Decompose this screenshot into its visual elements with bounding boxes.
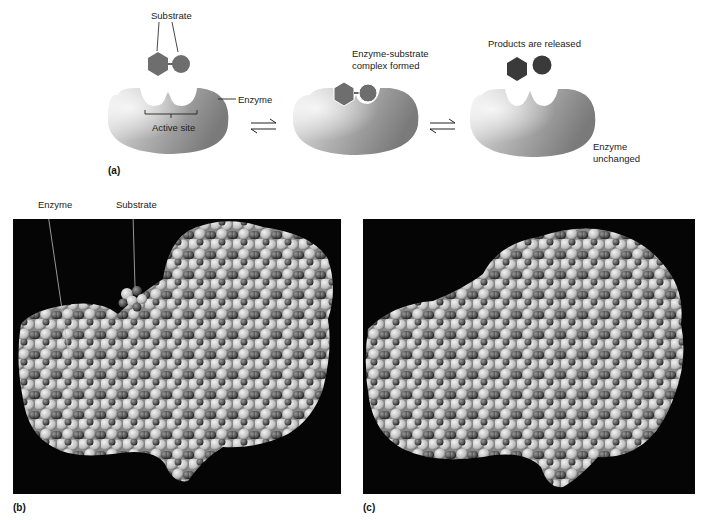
enzyme-unchanged-line1: Enzyme	[593, 141, 627, 152]
complex-label-line2: complex formed	[352, 60, 420, 71]
enzyme-shape-1	[108, 88, 228, 154]
products-released-label: Products are released	[488, 38, 581, 49]
equilibrium-arrow-1	[251, 119, 276, 133]
panel-a-letter: (a)	[108, 165, 120, 176]
panel-c-molecular-model	[363, 219, 695, 494]
space-filling-enzyme-substrate-separate	[13, 219, 341, 494]
enzyme-shape-unchanged	[470, 89, 595, 157]
equilibrium-arrow-2	[430, 119, 455, 133]
enzyme-label: Enzyme	[238, 94, 272, 105]
product-molecules-icon	[507, 56, 552, 82]
panel-c-letter: (c)	[363, 502, 375, 513]
active-site-label: Active site	[152, 122, 195, 133]
substrate-pointer-line-b	[133, 219, 135, 287]
panel-b-substrate-label: Substrate	[116, 199, 157, 210]
panel-b-letter: (b)	[13, 502, 26, 513]
enzyme-substrate-complex	[293, 82, 418, 155]
panel-b-molecular-model	[13, 219, 341, 494]
substrate-pointer-lines	[157, 22, 178, 52]
panel-b-enzyme-label: Enzyme	[38, 199, 72, 210]
substrate-molecule-icon	[148, 52, 190, 76]
space-filling-enzyme-substrate-complex	[363, 219, 695, 494]
substrate-label: Substrate	[151, 10, 192, 21]
panel-a-diagram	[0, 0, 709, 200]
complex-label-line1: Enzyme-substrate	[352, 48, 429, 59]
enzyme-unchanged-line2: unchanged	[593, 153, 640, 164]
